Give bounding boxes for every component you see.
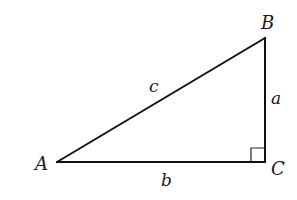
vertex-label-c: C [271,158,285,179]
triangle [57,38,265,162]
side-label-b: b [161,170,172,190]
right-angle-marker [251,148,265,162]
side-label-a: a [271,88,281,108]
right-triangle-diagram: A B C a b c [0,0,297,200]
vertex-label-a: A [33,153,48,174]
side-c-hypotenuse [57,38,265,162]
vertex-label-b: B [260,12,274,33]
side-label-c: c [149,76,159,96]
